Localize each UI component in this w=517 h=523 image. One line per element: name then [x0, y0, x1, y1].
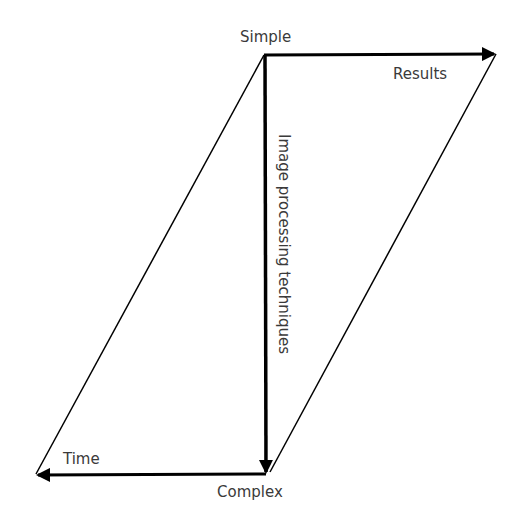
results-arrow [264, 54, 494, 55]
simple-label: Simple [240, 28, 291, 46]
time-arrow [38, 474, 266, 475]
results-label: Results [393, 65, 447, 83]
image-processing-techniques-label: Image processing techniques [275, 134, 293, 354]
complex-label: Complex [217, 483, 283, 501]
left-diagonal-edge [36, 55, 264, 474]
techniques-arrow [265, 55, 266, 472]
time-label: Time [63, 450, 100, 468]
right-diagonal-edge [270, 54, 496, 472]
